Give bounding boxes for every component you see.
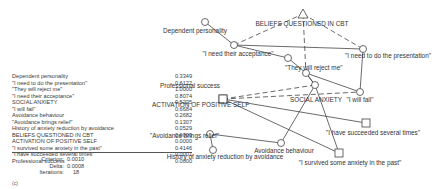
node-label-prof: Professional success	[160, 82, 220, 89]
node-label-rej: "They will reject me"	[285, 64, 342, 72]
node-succ	[362, 119, 370, 127]
node-label-cbt: BELIEFS QUESTIONED IN CBT	[255, 20, 348, 28]
node-surv	[335, 149, 343, 157]
node-label-pres: "I need to do the presentation"	[345, 52, 431, 60]
edge-relief-avb	[210, 134, 281, 143]
node-label-pos: ACTIVATION OF POSITIVE SELF	[152, 101, 249, 108]
node-acc	[285, 55, 292, 62]
node-label-dep: Dependent personality	[163, 27, 228, 35]
node-cbt	[298, 9, 308, 18]
node-dep	[231, 42, 238, 49]
node-label-surv: "I survived some anxiety in the past"	[299, 159, 402, 167]
node-label-succ: "I have succeeded several times"	[326, 129, 420, 136]
node-soc	[312, 82, 319, 89]
node-label-avb: Avoidance behaviour	[254, 147, 314, 154]
node-label-fail: "I will fail"	[347, 96, 374, 103]
edge-dep-pres	[234, 45, 363, 49]
network-diagram: Dependent personality"I need their accep…	[0, 0, 436, 189]
node-label-soc: SOCIAL ANXIETY	[290, 96, 343, 103]
edge-dep-cbt	[234, 14, 303, 45]
node-fail	[357, 89, 364, 96]
node-avb	[278, 140, 285, 147]
node-label-relief: "Avoidance brings relief"	[150, 132, 219, 140]
node-dep_src	[202, 19, 209, 26]
node-label-acc: "I need their acceptance"	[203, 50, 274, 58]
node-label-hist: History of anxiety reduction by avoidanc…	[167, 153, 284, 161]
